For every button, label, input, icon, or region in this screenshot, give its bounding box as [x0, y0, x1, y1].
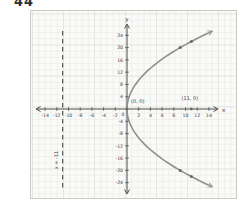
focus-point-label: (11, 0): [182, 95, 199, 101]
y-axis-label: y: [125, 16, 129, 23]
x-tick-label: 2: [137, 113, 140, 118]
y-tick-label: 12: [117, 70, 123, 75]
textbook-figure: 44 x = -11xy-14-12-10-8-6-4-22468101214-…: [0, 0, 243, 209]
x-tick-label: -2: [113, 113, 118, 118]
origin-tick-label: 0: [122, 112, 125, 117]
y-tick-label: -24: [115, 180, 123, 185]
y-tick-label: 20: [117, 45, 123, 50]
x-tick-label: -14: [41, 113, 49, 118]
curve-point-dot: [179, 169, 182, 172]
y-tick-label: 24: [117, 33, 123, 38]
problem-number: 44: [14, 0, 34, 9]
x-tick-label: -6: [90, 113, 95, 118]
x-tick-label: 4: [149, 113, 152, 118]
x-tick-label: 8: [172, 113, 175, 118]
x-tick-label: -8: [78, 113, 83, 118]
y-tick-label: -8: [118, 131, 123, 136]
y-tick-label: 4: [120, 94, 123, 99]
curve-point-dot: [190, 40, 193, 43]
directrix-label: x = -11: [53, 151, 59, 170]
vertex-point-label: (0, 0): [131, 98, 144, 104]
x-tick-label: 6: [161, 113, 164, 118]
graph-paper-panel: x = -11xy-14-12-10-8-6-4-22468101214-24-…: [30, 10, 237, 199]
y-tick-label: -4: [118, 119, 123, 124]
x-tick-label: -10: [65, 113, 73, 118]
focus-point-dot: [190, 108, 193, 111]
y-tick-label: -16: [115, 156, 123, 161]
curve-point-dot: [190, 175, 193, 178]
vertex-point-dot: [126, 108, 129, 111]
curve-point-dot: [179, 46, 182, 49]
y-tick-label: 16: [117, 58, 123, 63]
graph-svg: x = -11xy-14-12-10-8-6-4-22468101214-24-…: [31, 11, 236, 198]
x-tick-label: -4: [101, 113, 106, 118]
x-tick-label: -12: [53, 113, 61, 118]
y-tick-label: -12: [115, 144, 123, 149]
x-axis-label: x: [222, 107, 226, 113]
x-tick-label: 14: [206, 113, 212, 118]
y-tick-label: -20: [115, 168, 123, 173]
x-tick-label: 10: [183, 113, 189, 118]
x-tick-label: 12: [194, 113, 200, 118]
y-tick-label: 8: [120, 82, 123, 87]
